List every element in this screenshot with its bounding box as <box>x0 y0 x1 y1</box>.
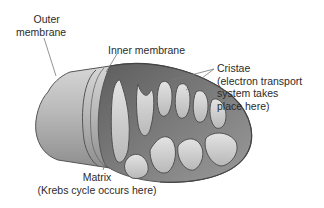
outer-membrane-label-line1: Outer <box>27 13 66 26</box>
inner-membrane-label-text: Inner membrane <box>108 44 185 56</box>
matrix-label-line1: Matrix <box>30 171 164 184</box>
inner-membrane-label: Inner membrane <box>108 44 185 57</box>
cristae-label: Cristae (electron transport system takes… <box>217 62 302 112</box>
cristae-label-line3: system takes <box>217 87 302 100</box>
cristae-label-line2: (electron transport <box>217 75 302 88</box>
cristae-label-line4: place here) <box>217 100 302 113</box>
matrix-label: Matrix (Krebs cycle occurs here) <box>30 171 164 196</box>
outer-membrane-label: Outer membrane <box>27 13 66 38</box>
outer-membrane-label-line2: membrane <box>16 26 66 39</box>
outer-membrane-leader <box>44 38 56 76</box>
cristae-label-line1: Cristae <box>217 62 302 75</box>
matrix-label-line2: (Krebs cycle occurs here) <box>30 184 164 197</box>
